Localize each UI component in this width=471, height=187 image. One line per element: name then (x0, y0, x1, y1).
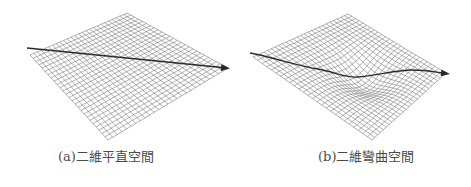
flat-grid-col-line (105, 66, 224, 137)
caption-flat-space: (a)二維平直空間 (58, 146, 154, 165)
curved-grid-row-line (348, 14, 446, 73)
flat-grid-col-line (108, 68, 228, 140)
curved-grid-row-line (319, 27, 423, 94)
curved-grid-row-line (322, 26, 426, 92)
flat-grid-row-line (64, 40, 150, 115)
curved-grid-row-line (290, 40, 401, 114)
curved-grid-row-line (271, 49, 386, 127)
curved-grid-col-line (253, 14, 348, 57)
flat-grid-row-line (71, 37, 159, 109)
flat-grid-row-line (45, 49, 127, 129)
flat-space-grid (30, 13, 228, 140)
flat-grid-col-line (93, 57, 209, 123)
caption-curved-space: (b)二維彎曲空間 (318, 146, 414, 165)
curved-grid-row-line (344, 16, 443, 76)
curved-grid-row-line (268, 50, 384, 129)
flat-grid-row-line (37, 52, 117, 135)
flat-grid-row-line (79, 34, 169, 104)
flat-grid-row-line (34, 53, 113, 137)
curved-grid-col-line (367, 71, 442, 137)
straight-arrow-head-icon (221, 64, 230, 71)
curved-arrow-head-icon (441, 69, 450, 76)
flat-grid-row-line (60, 42, 145, 118)
